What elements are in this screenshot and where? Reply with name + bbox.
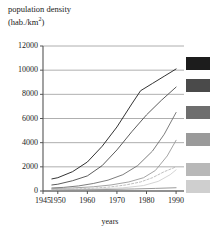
population-density-chart: population density (hab./km2) 0200040006…: [0, 0, 217, 231]
y-tick-label: 0: [4, 187, 38, 195]
legend-swatch-series-5: [186, 163, 210, 176]
x-axis-title: years: [80, 217, 140, 226]
y-tick-label: 10000: [4, 66, 38, 74]
y-tick-label: 8000: [4, 90, 38, 98]
legend-swatch-series-4: [186, 133, 210, 146]
legend-swatch-series-3: [186, 106, 210, 119]
legend-swatch-series-1: [186, 57, 210, 70]
y-tick-label: 6000: [4, 115, 38, 123]
y-tick-label: 2000: [4, 163, 38, 171]
series-line-series-1: [52, 69, 176, 179]
series-line-series-3: [52, 112, 176, 188]
series-line-series-2: [52, 87, 176, 185]
y-tick-label: 12000: [4, 42, 38, 50]
legend-swatch-series-6: [186, 180, 210, 193]
legend-swatch-series-2: [186, 79, 210, 92]
x-tick-label: 1980: [134, 197, 160, 205]
x-tick-label: 1960: [74, 197, 100, 205]
y-tick-label: 4000: [4, 139, 38, 147]
x-tick-label: 1970: [104, 197, 130, 205]
x-tick-label: 1990: [163, 197, 189, 205]
x-tick-label: 1950: [45, 197, 71, 205]
